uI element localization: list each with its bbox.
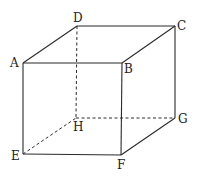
edge-EF	[23, 154, 121, 155]
vertex-label-E: E	[11, 149, 20, 163]
edge-BF	[121, 63, 122, 155]
edge-BC	[122, 26, 175, 63]
vertex-label-G: G	[178, 112, 188, 126]
edge-DA	[23, 26, 77, 63]
vertex-label-F: F	[117, 158, 125, 172]
vertex-label-C: C	[177, 19, 186, 33]
vertex-label-H: H	[73, 120, 83, 134]
hidden-edge-DH	[76, 26, 77, 118]
hidden-edge-EH	[23, 118, 76, 154]
edge-FG	[121, 118, 175, 155]
vertex-label-A: A	[9, 56, 19, 70]
vertex-label-D: D	[73, 11, 83, 25]
vertex-label-B: B	[124, 62, 133, 76]
cube-diagram: A B C D E F G H	[0, 0, 197, 177]
